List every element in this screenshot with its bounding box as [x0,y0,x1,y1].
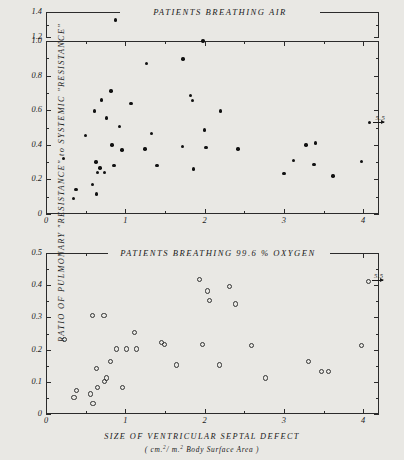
y-tick-major [46,214,51,215]
y-tick-label: 0.4 [16,140,42,149]
data-point [120,148,123,151]
x-tick-label: 2 [195,416,215,425]
y-tick-right-minor [376,334,379,335]
y-tick-upper-major [46,37,51,38]
y-tick-major [46,414,51,415]
y-tick-right-major [374,253,379,254]
y-tick-right-minor [376,162,379,163]
x-tick-major [363,409,364,414]
y-tick-label: 0.1 [16,377,42,386]
y-tick-major [46,350,51,351]
y-tick-major [46,382,51,383]
y-tick-minor [46,366,49,367]
y-tick-label: 0 [16,209,42,218]
y-tick-label: 0.4 [16,280,42,289]
chart-title-oxygen: PATIENTS BREATHING 99.6 % OXYGEN [98,248,338,258]
x-tick-major [125,209,126,214]
x-tick-top-major [363,253,364,258]
data-point [109,89,112,92]
y-tick-right-major [374,214,379,215]
x-tick-minor [86,211,87,214]
y-tick-right-minor [376,93,379,94]
data-point [304,143,307,146]
data-point [219,109,222,112]
data-point [104,375,109,380]
y-tick-minor [46,58,49,59]
y-tick-label: 0.5 [16,248,42,257]
y-tick-label: 0.2 [16,174,42,183]
x-tick-minor [324,211,325,214]
y-tick-major [46,285,51,286]
y-tick-minor [46,197,49,198]
offscale-value-label: 5.5 [375,114,385,121]
y-tick-label: 0.8 [16,71,42,80]
data-point [114,346,119,351]
y-tick-right-minor [376,269,379,270]
data-point [319,369,324,374]
arrow-right-icon [372,280,383,281]
y-tick-right-major [374,110,379,111]
y-tick-upper-right-minor [376,25,379,26]
x-tick-major [125,409,126,414]
data-point [88,391,93,396]
data-point [205,288,210,293]
y-tick-label: 0.2 [16,345,42,354]
x-tick-top-major [284,41,285,46]
y-tick-label-upper: 1.4 [16,7,42,16]
data-point [134,346,139,351]
x-units-mid: / m. [166,445,180,454]
x-tick-top-minor [86,253,87,256]
data-point [204,146,207,149]
y-tick-right-major [374,41,379,42]
y-tick-label: 0.6 [16,105,42,114]
x-tick-label: 4 [353,216,373,225]
data-point [110,143,113,146]
data-point [71,395,76,400]
x-tick-minor [165,411,166,414]
y-tick-right-major [374,382,379,383]
data-point [201,39,204,42]
y-tick-label: 0 [16,409,42,418]
data-point [100,98,103,101]
data-point [98,166,101,169]
chart-title-air: PATIENTS BREATHING AIR [110,7,330,17]
y-tick-upper-major [46,12,51,13]
data-point [155,164,158,167]
y-tick-upper-right-major [374,37,379,38]
data-point [233,301,238,306]
y-tick-major [46,76,51,77]
data-point [192,167,195,170]
data-point [263,375,268,380]
x-tick-minor [86,411,87,414]
y-tick-right-major [374,317,379,318]
x-tick-top-major [363,41,364,46]
y-tick-right-minor [376,301,379,302]
y-tick-right-minor [376,128,379,129]
x-tick-label: 2 [195,216,215,225]
x-tick-top-minor [86,41,87,44]
y-tick-right-major [374,179,379,180]
y-tick-upper-minor [46,25,49,26]
x-units-suffix: Body Surface Area ) [184,445,260,454]
data-point [105,116,108,119]
data-point [282,172,285,175]
x-tick-label: 1 [115,216,135,225]
x-tick-minor [244,211,245,214]
data-point [62,337,67,342]
y-tick-right-major [374,414,379,415]
x-tick-minor [324,411,325,414]
y-tick-right-major [374,285,379,286]
x-tick-top-major [125,41,126,46]
x-tick-label: 4 [353,416,373,425]
y-tick-minor [46,269,49,270]
x-tick-major [284,209,285,214]
data-point [93,109,96,112]
y-tick-right-major [374,76,379,77]
y-tick-minor [46,93,49,94]
x-tick-top-minor [324,41,325,44]
data-point [314,141,317,144]
figure-root: RATIO OF PULMONARY "RESISTANCE" to SYSTE… [0,0,404,460]
y-tick-right-major [374,145,379,146]
data-point [181,57,184,60]
x-tick-label: 3 [274,416,294,425]
